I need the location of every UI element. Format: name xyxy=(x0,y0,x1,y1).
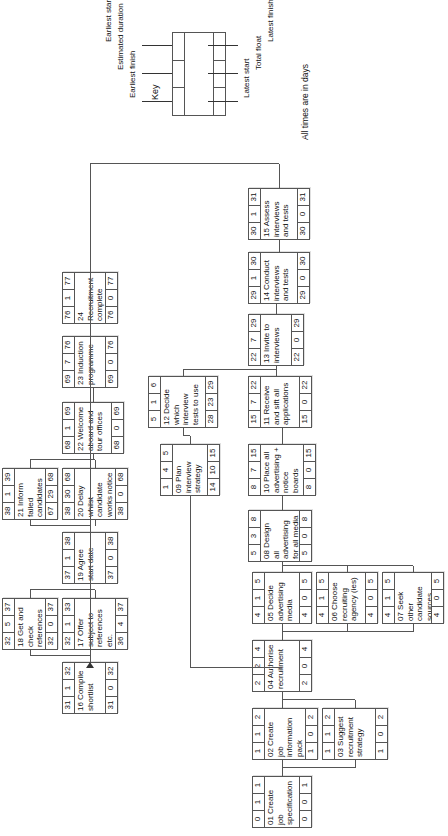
activity-node-02[interactable]: 11202 Create job information pack102 xyxy=(252,708,318,760)
activity-node-07[interactable]: 41507 Seek other candidate sources405 xyxy=(382,572,444,624)
activity-node-03[interactable]: 11203 Suggest recruitment strategy102 xyxy=(322,708,388,760)
earliest-start-07: 4 xyxy=(383,606,394,623)
earliest-finish-23: 76 xyxy=(63,337,74,353)
activity-label-17: 17 Offer subject to references etc. xyxy=(75,599,115,649)
connector xyxy=(30,589,95,590)
activity-node-17[interactable]: 3213317 Offer subject to references etc.… xyxy=(62,598,128,650)
connector xyxy=(282,624,283,632)
total-float-14: 0 xyxy=(298,269,309,286)
duration-15: 1 xyxy=(249,205,260,222)
latest-start-21: 67 xyxy=(46,502,57,519)
earliest-start-22: 68 xyxy=(63,436,74,453)
earliest-start-11: 15 xyxy=(249,410,260,427)
total-float-19: 0 xyxy=(106,549,117,566)
duration-07: 1 xyxy=(383,589,394,606)
activity-node-12[interactable]: 51612 Decide which interview tests to us… xyxy=(148,376,218,428)
connector xyxy=(282,496,283,510)
total-float-03: 0 xyxy=(376,725,387,742)
total-float-24: 0 xyxy=(106,289,117,306)
earliest-finish-02: 2 xyxy=(253,709,264,725)
activity-label-16: 16 Compile shortlist xyxy=(75,663,105,713)
earliest-finish-21: 39 xyxy=(3,469,14,485)
latest-start-16: 31 xyxy=(106,696,117,713)
earliest-start-04: 2 xyxy=(253,674,264,691)
total-float-09: 10 xyxy=(208,461,219,478)
earliest-finish-09: 5 xyxy=(161,445,172,461)
activity-node-20[interactable]: 38306820 Delay whilst candidate works no… xyxy=(62,468,128,520)
earliest-finish-01: 1 xyxy=(253,777,264,793)
latest-finish-08: 8 xyxy=(300,511,311,527)
total-float-08: 0 xyxy=(300,527,311,544)
earliest-finish-06: 5 xyxy=(317,573,328,589)
legend-label-top-0: Earliest finish xyxy=(128,50,137,98)
activity-node-16[interactable]: 3113216 Compile shortlist31032 xyxy=(62,662,118,714)
earliest-start-20: 38 xyxy=(63,502,74,519)
connector xyxy=(183,428,184,436)
activity-node-06[interactable]: 41506 Choose recruiting agency (ies)405 xyxy=(316,572,378,624)
activity-label-07: 07 Seek other candidate sources xyxy=(395,573,431,623)
latest-finish-15: 31 xyxy=(298,189,309,205)
activity-node-08[interactable]: 53808 Design all advertising for all med… xyxy=(248,510,312,562)
latest-finish-07: 5 xyxy=(432,573,443,589)
duration-01: 1 xyxy=(253,793,264,810)
total-float-10: 0 xyxy=(304,461,315,478)
activity-label-03: 03 Suggest recruitment strategy xyxy=(335,709,375,759)
total-float-15: 0 xyxy=(298,205,309,222)
activity-label-20: 20 Delay whilst candidate works notice xyxy=(75,469,115,519)
connector xyxy=(90,584,91,590)
connector xyxy=(347,566,348,572)
activity-node-11[interactable]: 1572211 Receive and sift all application… xyxy=(248,376,312,428)
latest-start-19: 37 xyxy=(106,566,117,583)
duration-09: 4 xyxy=(161,461,172,478)
activity-label-10: 10 Place all advertising + notice boards xyxy=(261,445,303,495)
latest-start-11: 15 xyxy=(300,410,311,427)
total-float-02: 0 xyxy=(306,725,317,742)
latest-start-15: 30 xyxy=(298,222,309,239)
total-float-07: 0 xyxy=(432,589,443,606)
legend: KeyEarliest finishEstimated durationEarl… xyxy=(150,6,400,146)
connector xyxy=(413,624,414,632)
latest-finish-06: 5 xyxy=(366,573,377,589)
network-diagram-canvas: 01101 Create job specification00111202 C… xyxy=(0,0,448,836)
activity-label-15: 15 Assess interviews and tests xyxy=(261,189,297,239)
earliest-finish-19: 38 xyxy=(63,533,74,549)
activity-node-10[interactable]: 871510 Place all advertising + notice bo… xyxy=(248,444,316,496)
activity-node-13[interactable]: 2272913 Invite to interviews22029 xyxy=(248,314,304,366)
earliest-finish-08: 8 xyxy=(249,511,260,527)
activity-node-15[interactable]: 3013115 Assess interviews and tests30031 xyxy=(248,188,310,240)
earliest-finish-15: 31 xyxy=(249,189,260,205)
duration-02: 1 xyxy=(253,725,264,742)
activity-node-14[interactable]: 2913014 Conduct interviews and tests2903… xyxy=(248,252,310,304)
duration-05: 1 xyxy=(253,589,264,606)
activity-node-18[interactable]: 3253718 Get and check references32037 xyxy=(2,598,58,650)
earliest-start-13: 22 xyxy=(249,348,260,365)
latest-finish-23: 76 xyxy=(106,337,117,353)
duration-19: 1 xyxy=(63,549,74,566)
connector xyxy=(95,460,96,468)
connector xyxy=(282,767,355,768)
activity-node-04[interactable]: 22404 Authorise recruitment204 xyxy=(252,640,312,692)
earliest-start-05: 4 xyxy=(253,606,264,623)
latest-finish-20: 68 xyxy=(116,469,127,485)
activity-node-21[interactable]: 3813921 Inform failed candidates672968 xyxy=(2,468,58,520)
legend-label-top-1: Estimated duration xyxy=(116,3,125,70)
latest-start-20: 38 xyxy=(116,502,127,519)
legend-leader-line xyxy=(208,101,238,102)
latest-start-08: 5 xyxy=(300,544,311,561)
activity-label-13: 13 Invite to interviews xyxy=(261,315,291,365)
activity-label-04: 04 Authorise recruitment xyxy=(265,641,299,691)
activity-label-05: 05 Decide advertising media xyxy=(265,573,299,623)
legend-note: All times are in days xyxy=(300,64,310,140)
latest-start-13: 22 xyxy=(292,348,303,365)
earliest-start-15: 30 xyxy=(249,222,260,239)
activity-node-05[interactable]: 41505 Decide advertising media405 xyxy=(252,572,312,624)
activity-node-01[interactable]: 01101 Create job specification001 xyxy=(252,776,312,828)
earliest-start-14: 29 xyxy=(249,286,260,303)
activity-node-22[interactable]: 6816922 Welcome aboard and tour offices6… xyxy=(62,402,124,454)
earliest-start-18: 32 xyxy=(3,632,14,649)
activity-node-09[interactable]: 14509 Plan interview strategy141015 xyxy=(160,444,220,496)
duration-08: 3 xyxy=(249,527,260,544)
connector xyxy=(95,520,96,526)
latest-finish-22: 69 xyxy=(112,403,123,419)
earliest-start-12: 5 xyxy=(149,410,160,427)
